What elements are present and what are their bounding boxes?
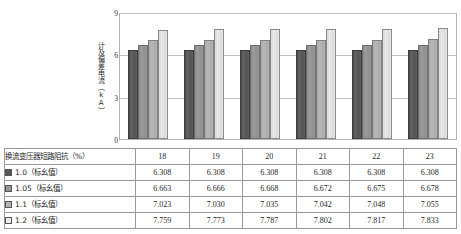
table-head: 换流变压器短路阻抗（%） 181920212223: [5, 149, 457, 165]
legend-swatch-icon: [5, 169, 12, 176]
table-cell-value: 6.308: [189, 165, 243, 181]
table-cell-value: 6.663: [136, 181, 190, 197]
table-column-header: 19: [189, 149, 243, 165]
legend-swatch-icon: [5, 201, 12, 208]
bar-group: [120, 14, 176, 139]
data-table: 换流变压器短路阻抗（%） 181920212223 1.0（标幺值）6.3086…: [4, 148, 457, 229]
table-row: 1.2（标幺值）7.7597.7737.7877.8027.8177.833: [5, 213, 457, 229]
bar[interactable]: [408, 50, 418, 139]
bar[interactable]: [260, 40, 270, 139]
table-corner-header-label: 换流变压器短路阻抗（%）: [5, 152, 89, 161]
table-row: 1.1（标幺值）7.0237.0307.0357.0427.0487.055: [5, 197, 457, 213]
y-axis-tick-label: 6: [114, 51, 118, 60]
bar[interactable]: [418, 45, 428, 139]
table-cell-value: 6.308: [136, 165, 190, 181]
bar[interactable]: [296, 50, 306, 139]
bar-groups: [120, 14, 456, 139]
bar[interactable]: [204, 40, 214, 139]
table-cell-value: 6.308: [243, 165, 297, 181]
table-row: 1.05（标幺值）6.6636.6666.6686.6726.6756.678: [5, 181, 457, 197]
y-axis-tick-label: 0: [114, 136, 118, 145]
bar[interactable]: [184, 50, 194, 139]
table-corner-header: 换流变压器短路阻抗（%）: [5, 149, 136, 165]
legend-label-text: 1.05（标幺值）: [15, 184, 67, 193]
bar[interactable]: [148, 40, 158, 139]
bar[interactable]: [250, 45, 260, 139]
legend-row-label: 1.1（标幺值）: [5, 197, 136, 213]
table-cell-value: 7.055: [403, 197, 457, 213]
table-header-row: 换流变压器短路阻抗（%） 181920212223: [5, 149, 457, 165]
table-cell-value: 6.308: [403, 165, 457, 181]
y-axis-tick-labels: 0369: [104, 8, 118, 140]
table-cell-value: 6.666: [189, 181, 243, 197]
bar[interactable]: [438, 28, 448, 139]
bar-group: [176, 14, 232, 139]
bar[interactable]: [326, 29, 336, 139]
bar[interactable]: [382, 29, 392, 139]
legend-label-text: 1.1（标幺值）: [15, 200, 62, 209]
table-column-header: 18: [136, 149, 190, 165]
bar[interactable]: [158, 30, 168, 139]
bar-chart: 计及偏差电流（kA） 0369: [0, 0, 461, 148]
table-cell-value: 7.833: [403, 213, 457, 229]
table-cell-value: 6.308: [350, 165, 404, 181]
bar-group: [232, 14, 288, 139]
data-table-container: 换流变压器短路阻抗（%） 181920212223 1.0（标幺值）6.3086…: [4, 148, 457, 229]
table-cell-value: 7.030: [189, 197, 243, 213]
table-column-header: 20: [243, 149, 297, 165]
table-body: 1.0（标幺值）6.3086.3086.3086.3086.3086.3081.…: [5, 165, 457, 229]
bar[interactable]: [316, 40, 326, 139]
bar-group: [400, 14, 456, 139]
bar-group: [288, 14, 344, 139]
table-cell-value: 7.035: [243, 197, 297, 213]
table-cell-value: 7.802: [296, 213, 350, 229]
table-column-header: 23: [403, 149, 457, 165]
legend-row-label: 1.05（标幺值）: [5, 181, 136, 197]
table-column-header: 21: [296, 149, 350, 165]
table-cell-value: 6.668: [243, 181, 297, 197]
bar[interactable]: [138, 45, 148, 139]
legend-swatch-icon: [5, 185, 12, 192]
bar[interactable]: [372, 40, 382, 139]
bar[interactable]: [362, 45, 372, 139]
bar-group: [344, 14, 400, 139]
legend-row-label: 1.2（标幺值）: [5, 213, 136, 229]
table-cell-value: 7.048: [350, 197, 404, 213]
table-cell-value: 6.678: [403, 181, 457, 197]
table-cell-value: 7.817: [350, 213, 404, 229]
bar[interactable]: [214, 29, 224, 139]
bar[interactable]: [428, 39, 438, 139]
bar[interactable]: [306, 45, 316, 139]
table-cell-value: 6.308: [296, 165, 350, 181]
bar[interactable]: [352, 50, 362, 139]
bar[interactable]: [240, 50, 250, 139]
y-axis-tick-label: 3: [114, 93, 118, 102]
table-column-header: 22: [350, 149, 404, 165]
table-cell-value: 7.759: [136, 213, 190, 229]
table-cell-value: 7.023: [136, 197, 190, 213]
legend-label-text: 1.2（标幺值）: [15, 216, 62, 225]
bar[interactable]: [270, 29, 280, 139]
bar[interactable]: [194, 45, 204, 139]
table-cell-value: 7.787: [243, 213, 297, 229]
legend-swatch-icon: [5, 217, 12, 224]
table-row: 1.0（标幺值）6.3086.3086.3086.3086.3086.308: [5, 165, 457, 181]
legend-label-text: 1.0（标幺值）: [15, 168, 62, 177]
table-cell-value: 6.675: [350, 181, 404, 197]
table-cell-value: 7.042: [296, 197, 350, 213]
y-axis-tick-label: 9: [114, 9, 118, 18]
plot-area: [119, 13, 457, 140]
legend-row-label: 1.0（标幺值）: [5, 165, 136, 181]
chart-with-data-table: 计及偏差电流（kA） 0369 换流变压器短路阻抗（%） 18192021222…: [0, 0, 461, 234]
table-cell-value: 6.672: [296, 181, 350, 197]
bar[interactable]: [128, 50, 138, 139]
table-cell-value: 7.773: [189, 213, 243, 229]
